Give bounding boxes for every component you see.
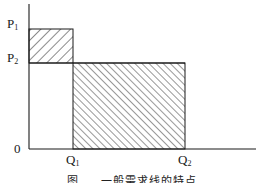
x-label-q2: Q2 (178, 153, 191, 170)
y-label-p1: P1 (7, 17, 18, 34)
lower-hatched-region (73, 63, 185, 149)
upper-hatched-region (29, 29, 73, 63)
diagram-canvas (0, 0, 264, 183)
x-label-q1: Q1 (66, 153, 79, 170)
y-label-p2: P2 (7, 51, 18, 68)
figure-caption: 图 ... 一般需求线的特点 (0, 172, 264, 183)
origin-label: 0 (14, 142, 21, 155)
